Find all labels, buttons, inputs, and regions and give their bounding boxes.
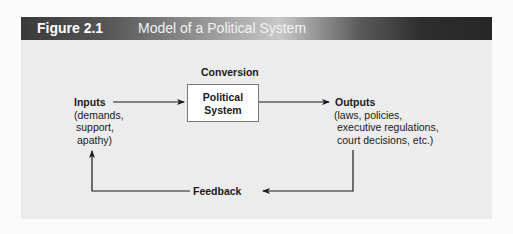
outputs-detail-1: (laws, policies,: [334, 109, 439, 122]
inputs-label: Inputs: [74, 96, 124, 109]
outputs-block: Outputs (laws, policies, executive regul…: [335, 96, 439, 146]
inputs-block: Inputs (demands, support, apathy): [74, 96, 124, 146]
outputs-label: Outputs: [335, 96, 439, 109]
feedback-line-right: [263, 150, 353, 191]
political-system-box: Political System: [187, 84, 259, 122]
feedback-line-left: [92, 151, 190, 191]
outputs-detail-2: executive regulations,: [335, 121, 439, 134]
conversion-label: Conversion: [201, 66, 259, 79]
inputs-detail-1: (demands,: [74, 109, 124, 122]
inputs-detail-2: support,: [74, 121, 124, 134]
system-box-line2: System: [188, 104, 258, 117]
outputs-detail-3: court decisions, etc.): [335, 134, 439, 147]
feedback-label: Feedback: [193, 185, 241, 198]
inputs-detail-3: apathy): [74, 134, 124, 147]
system-box-line1: Political: [188, 91, 258, 104]
